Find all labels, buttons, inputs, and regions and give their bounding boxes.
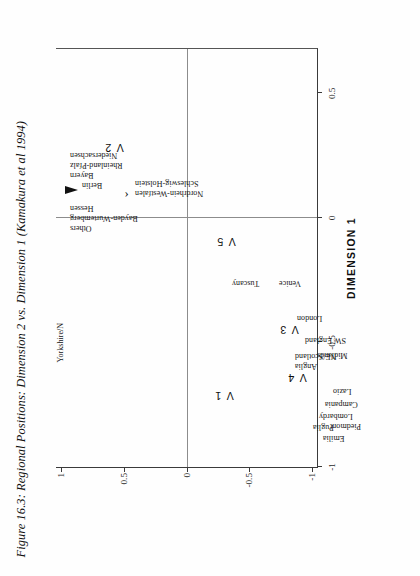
x-ticklabel-zero: 0: [327, 216, 337, 221]
point-label-lombardy: Lombardy: [319, 412, 353, 421]
point-label-lazio: Lazio: [333, 387, 351, 396]
y-tick-neghalf: [249, 467, 250, 472]
x-tick-zero: [317, 217, 322, 218]
point-label-campania: Campania: [325, 400, 358, 409]
x-tick-neg1: [317, 466, 322, 467]
figure-page: Figure 16.3: Regional Positions: Dimensi…: [0, 0, 420, 576]
y-zero-line: [187, 49, 188, 467]
point-label-baden-wurtemberg: Bayden-Wurtemberg: [70, 214, 138, 223]
point-label-nordrhein-westfalen: Nordrhein-Westfalen: [135, 189, 203, 198]
point-label-others: Others: [70, 224, 92, 233]
y-ticklabel-pos1: 1: [56, 473, 66, 493]
y-tick-pos1: [61, 467, 62, 472]
point-label-bayern: Bayern: [70, 171, 93, 180]
plot-frame: -1 -0.5 0 0.5 DIMENSION 1 1 0.5 0 -0.5 -…: [56, 48, 318, 468]
y-tick-zero: [187, 467, 188, 472]
cluster-pointer-marker: [65, 186, 78, 194]
point-label-schleswig-holstein: Schleswig-Holstein: [135, 179, 198, 188]
cluster-label-v1: V 1: [214, 391, 234, 403]
point-label-sw-england: SW England: [305, 336, 346, 345]
point-label-hessen: Hessen: [70, 204, 93, 213]
y-tick-poshalf: [124, 467, 125, 472]
y-tick-neg1: [312, 467, 313, 472]
cluster-label-v4: V 4: [287, 372, 307, 384]
x-tick-poshalf: [317, 92, 322, 93]
y-ticklabel-zero: 0: [182, 473, 192, 493]
x-ticklabel-neg1: -1: [327, 463, 337, 471]
y-ticklabel-neghalf: -0.5: [244, 473, 254, 493]
point-label-london: London: [297, 314, 322, 323]
point-label-berlin: Berlin: [82, 181, 102, 190]
bracket-pointer-icon: ‹: [124, 191, 128, 204]
cluster-label-v5: V 5: [217, 236, 237, 248]
point-label-piedmont: Piedmont: [330, 422, 361, 431]
figure-title: Figure 16.3: Regional Positions: Dimensi…: [14, 0, 29, 558]
point-label-rheinland-pfalz: Rheinland-Pfalz: [70, 161, 123, 170]
point-label-emilia: Emilia: [323, 434, 345, 443]
point-label-anglia: Anglia: [295, 363, 317, 372]
point-label-venice: Venice: [279, 279, 301, 288]
point-label-tuscany: Tuscany: [232, 279, 259, 288]
y-ticklabel-poshalf: 0.5: [119, 473, 129, 493]
cluster-label-v3: V 3: [279, 324, 299, 336]
cluster-label-v2: V 2: [104, 142, 124, 154]
point-label-midlands: Midlands: [317, 351, 348, 360]
rotated-plot-canvas: -1 -0.5 0 0.5 DIMENSION 1 1 0.5 0 -0.5 -…: [50, 38, 350, 508]
plot-stage: -1 -0.5 0 0.5 DIMENSION 1 1 0.5 0 -0.5 -…: [50, 38, 350, 508]
x-ticklabel-poshalf: 0.5: [327, 88, 337, 99]
point-label-yorkshire-n: Yorkshire/N: [56, 323, 65, 363]
y-ticklabel-neg1: -1: [307, 473, 317, 493]
